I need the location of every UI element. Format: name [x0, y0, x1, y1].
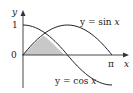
- tick-label-one: 1: [12, 20, 18, 30]
- y-axis-label: y: [11, 7, 18, 17]
- sine-label: y = sin x: [79, 17, 120, 27]
- y-axis-arrow-icon: [21, 10, 26, 16]
- x-axis-arrow-icon: [123, 53, 129, 58]
- trig-diagram: y 1 0 π x y = sin x y = cos x: [0, 0, 133, 93]
- tick-label-origin: 0: [11, 50, 17, 60]
- x-axis-label: x: [124, 59, 129, 69]
- tick-label-pi: π: [108, 59, 114, 69]
- cosine-label: y = cos x: [54, 76, 96, 86]
